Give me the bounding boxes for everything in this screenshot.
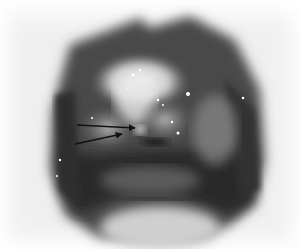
medical-photograph: [0, 0, 300, 249]
photo-canvas: [0, 0, 300, 249]
